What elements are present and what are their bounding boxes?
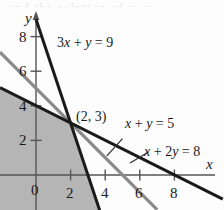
equation-label-x-plus-y-equals-5: x + y = 5 — [125, 117, 174, 131]
x-tick-label-4: 4 — [101, 186, 109, 201]
x-axis-label: x — [206, 157, 213, 172]
eq3-equals: = — [178, 144, 193, 159]
intersection-point-label: (2, 3) — [76, 110, 106, 124]
y-axis-arrowhead — [33, 11, 40, 20]
equation-label-x-plus-2y-equals-8: x + 2y = 8 — [144, 145, 200, 159]
equation-label-3x-plus-y-equals-9: 3x + y = 9 — [57, 36, 113, 50]
eq2-rhs: 5 — [167, 116, 174, 131]
eq1-plus: + — [70, 35, 85, 50]
eq3-plus: + — [150, 144, 165, 159]
eq1-coefficient: 3 — [57, 35, 64, 50]
eq2-equals: = — [152, 116, 167, 131]
shaded-feasible-region — [0, 88, 100, 210]
eq2-plus: + — [131, 116, 146, 131]
x-tick-label-8: 8 — [170, 186, 178, 201]
x-tick-label-2: 2 — [66, 186, 74, 201]
graph-canvas — [0, 0, 224, 210]
eq1-equals: = — [91, 35, 106, 50]
eq3-rhs: 8 — [193, 144, 200, 159]
x-tick-label-0: 0 — [31, 183, 39, 198]
y-tick-label-8: 8 — [19, 30, 27, 45]
y-tick-label-4: 4 — [19, 99, 27, 114]
y-axis-label: y — [25, 11, 32, 26]
y-tick-label-2: 2 — [19, 133, 27, 148]
linear-programming-figure: and the solution of x, y 8 6 4 2 — [0, 0, 224, 210]
x-tick-label-6: 6 — [135, 186, 143, 201]
y-tick-label-6: 6 — [19, 64, 27, 79]
eq1-rhs: 9 — [106, 35, 113, 50]
